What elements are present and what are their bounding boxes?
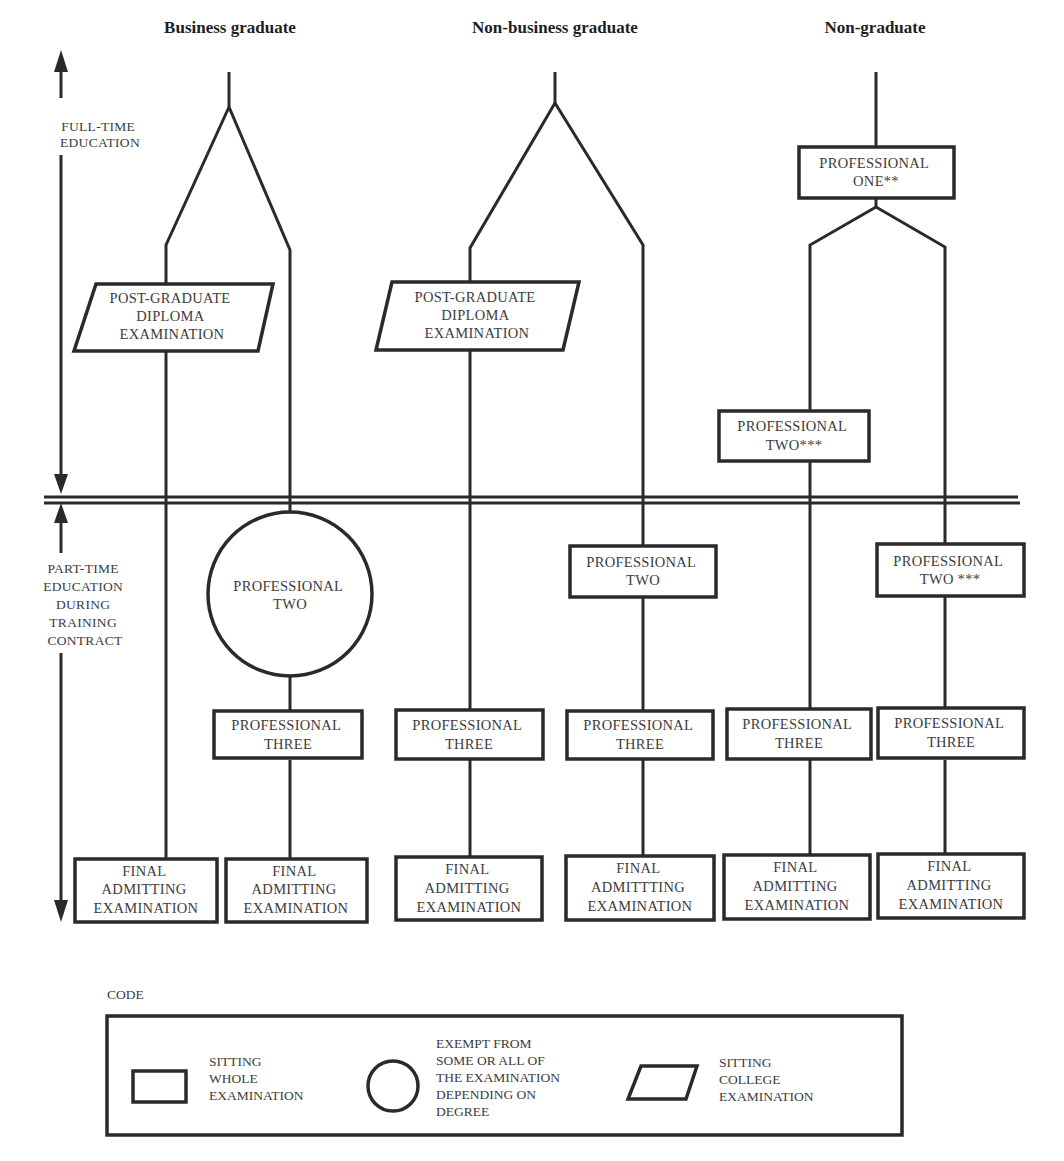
node-final-admitting-business-left: FINAL ADMITTING EXAMINATION <box>75 859 217 922</box>
column-header-non-graduate: Non-graduate <box>824 18 926 37</box>
node-post-graduate-diploma-business: POST-GRADUATE DIPLOMA EXAMINATION <box>74 284 273 351</box>
node-professional-three-non-graduate-right: PROFESSIONAL THREE <box>878 708 1024 758</box>
node-final-admitting-non-graduate-left: FINAL ADMITTING EXAMINATION <box>724 855 870 919</box>
node-professional-two-exempt-business: PROFESSIONAL TWO <box>208 512 372 676</box>
node-post-graduate-diploma-non-business: POST-GRADUATE DIPLOMA EXAMINATION <box>376 282 579 350</box>
node-final-admitting-business-right: FINAL ADMITTING EXAMINATION <box>226 859 367 922</box>
full-time-arrow <box>54 50 68 494</box>
part-time-education-label: PART-TIME EDUCATION DURING TRAINING CONT… <box>43 561 127 648</box>
node-professional-two-non-graduate-left: PROFESSIONAL TWO*** <box>719 411 869 461</box>
phase-divider <box>44 497 1020 503</box>
node-professional-two-non-business: PROFESSIONAL TWO <box>570 546 716 597</box>
full-time-education-label: FULL-TIME EDUCATION <box>60 119 140 150</box>
node-final-admitting-non-business-left: FINAL ADMITTING EXAMINATION <box>396 857 542 920</box>
arrow-down-icon <box>54 900 68 922</box>
arrow-down-icon <box>54 474 68 494</box>
node-final-admitting-non-graduate-right: FINAL ADMITTING EXAMINATION <box>878 854 1024 918</box>
node-professional-two-non-graduate-right: PROFESSIONAL TWO *** <box>877 544 1024 596</box>
node-professional-three-non-business-right: PROFESSIONAL THREE <box>567 711 713 759</box>
column-header-business-graduate: Business graduate <box>164 18 296 37</box>
node-final-admitting-non-business-right: FINAL ADMITTTING EXAMINATION <box>566 856 714 920</box>
node-professional-three-business: PROFESSIONAL THREE <box>214 711 362 758</box>
column-header-non-business-graduate: Non-business graduate <box>472 18 638 37</box>
qualification-routes-diagram: Business graduate Non-business graduate … <box>0 0 1064 1161</box>
arrow-up-icon <box>54 50 68 72</box>
legend: SITTING WHOLE EXAMINATION EXEMPT FROM SO… <box>107 1016 902 1135</box>
legend-title: CODE <box>107 987 144 1002</box>
node-professional-three-non-graduate-left: PROFESSIONAL THREE <box>727 709 871 759</box>
node-professional-three-non-business-left: PROFESSIONAL THREE <box>396 710 543 759</box>
node-professional-one-non-graduate: PROFESSIONAL ONE** <box>799 147 954 198</box>
